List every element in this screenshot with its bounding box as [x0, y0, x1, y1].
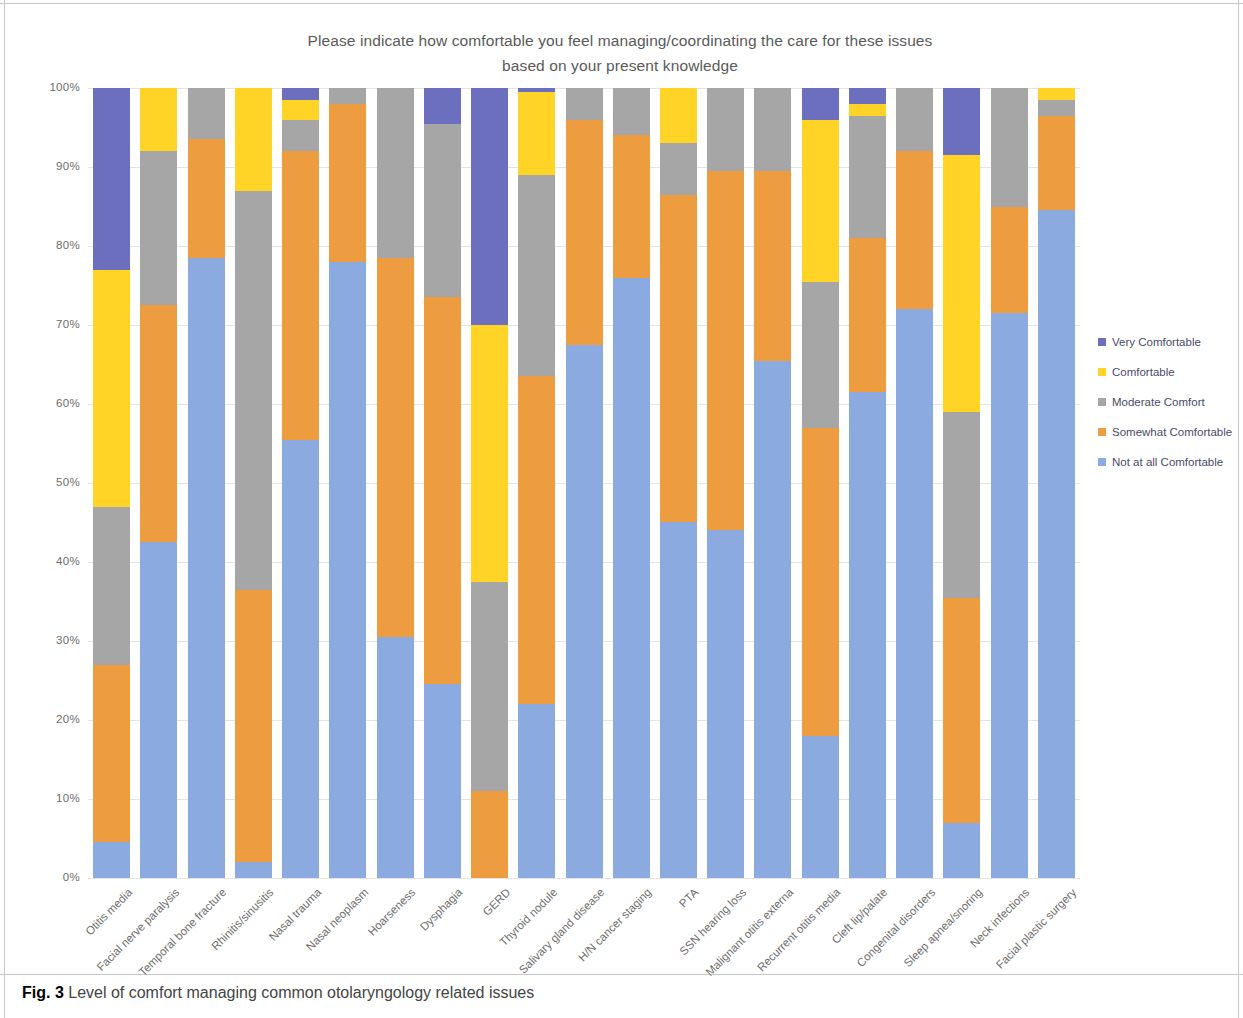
bar-segment — [93, 270, 130, 507]
bar-segment — [518, 175, 555, 376]
figure-caption: Fig. 3 Level of comfort managing common … — [22, 984, 1222, 1002]
bar-segment — [471, 791, 508, 878]
x-axis-label-9: GERD — [480, 886, 512, 918]
bar-segment — [1038, 116, 1075, 211]
bar-segment — [282, 151, 319, 439]
bar-12 — [613, 88, 650, 878]
legend-item-3[interactable]: Moderate Comfort — [1098, 396, 1243, 408]
figure-caption-text: Level of comfort managing common otolary… — [68, 984, 534, 1001]
bar-segment — [707, 88, 744, 171]
x-axis-label-3: Temporal bone fracture — [136, 886, 228, 978]
x-axis-label-8: Dysphagia — [418, 886, 465, 933]
bar-segment — [802, 428, 839, 736]
bar-20 — [991, 88, 1028, 878]
bar-10 — [518, 88, 555, 878]
bar-segment — [140, 305, 177, 542]
bar-1 — [93, 88, 130, 878]
legend-swatch-icon — [1098, 458, 1106, 466]
bar-segment — [377, 88, 414, 258]
bar-segment — [188, 258, 225, 878]
legend-label: Somewhat Comfortable — [1112, 426, 1232, 438]
bar-segment — [660, 143, 697, 194]
figure-container: Please indicate how comfortable you feel… — [0, 0, 1243, 1018]
bar-segment — [424, 684, 461, 878]
bar-segment — [282, 440, 319, 878]
figure-caption-number: Fig. 3 — [22, 984, 64, 1001]
bar-segment — [943, 88, 980, 155]
legend: Very ComfortableComfortableModerate Comf… — [1098, 336, 1243, 486]
bar-segment — [802, 88, 839, 120]
x-axis-label-7: Hoarseness — [366, 886, 418, 938]
bar-segment — [660, 195, 697, 523]
bar-4 — [235, 88, 272, 878]
bar-segment — [424, 297, 461, 684]
bar-segment — [1038, 88, 1075, 100]
bar-segment — [754, 171, 791, 361]
x-axis-label-13: PTA — [677, 886, 701, 910]
legend-swatch-icon — [1098, 428, 1106, 436]
bar-segment — [566, 88, 603, 120]
bar-2 — [140, 88, 177, 878]
y-axis-tick-label: 10% — [28, 792, 80, 804]
y-axis-tick-label: 100% — [28, 81, 80, 93]
bar-segment — [991, 88, 1028, 207]
bar-segment — [660, 88, 697, 143]
y-axis-tick-label: 50% — [28, 476, 80, 488]
y-axis-tick-label: 20% — [28, 713, 80, 725]
bar-segment — [471, 88, 508, 325]
bar-segment — [471, 582, 508, 791]
legend-item-4[interactable]: Somewhat Comfortable — [1098, 426, 1243, 438]
bar-segment — [613, 278, 650, 878]
bar-segment — [140, 88, 177, 151]
bar-17 — [849, 88, 886, 878]
legend-item-2[interactable]: Comfortable — [1098, 366, 1243, 378]
bar-segment — [707, 171, 744, 530]
bar-segment — [943, 155, 980, 412]
bar-segment — [188, 139, 225, 258]
x-axis-label-19: Sleep apnea/snoring — [901, 886, 984, 969]
bar-segment — [991, 313, 1028, 878]
bar-13 — [660, 88, 697, 878]
gridline — [88, 878, 1080, 879]
legend-item-5[interactable]: Not at all Comfortable — [1098, 456, 1243, 468]
bar-8 — [424, 88, 461, 878]
legend-item-1[interactable]: Very Comfortable — [1098, 336, 1243, 348]
bar-16 — [802, 88, 839, 878]
bar-segment — [377, 637, 414, 878]
bar-segment — [802, 120, 839, 282]
bar-segment — [140, 542, 177, 878]
bar-segment — [660, 522, 697, 878]
bar-segment — [566, 120, 603, 345]
bar-segment — [235, 88, 272, 191]
x-axis-label-11: Salivary gland disease — [517, 886, 607, 976]
bar-segment — [849, 116, 886, 238]
bar-segment — [235, 862, 272, 878]
y-axis-tick-label: 40% — [28, 555, 80, 567]
y-axis-tick-label: 80% — [28, 239, 80, 251]
bar-3 — [188, 88, 225, 878]
bar-segment — [896, 151, 933, 309]
bar-18 — [896, 88, 933, 878]
plot-area — [88, 88, 1080, 878]
bar-segment — [849, 392, 886, 878]
bar-segment — [329, 104, 366, 262]
y-axis-tick-label: 60% — [28, 397, 80, 409]
bar-segment — [1038, 210, 1075, 878]
bar-segment — [282, 88, 319, 100]
bar-segment — [424, 88, 461, 124]
bar-segment — [235, 590, 272, 863]
bar-segment — [754, 361, 791, 878]
bar-21 — [1038, 88, 1075, 878]
bar-segment — [235, 191, 272, 590]
bar-segment — [754, 88, 791, 171]
bar-segment — [613, 135, 650, 277]
bar-segment — [377, 258, 414, 637]
y-axis-tick-label: 70% — [28, 318, 80, 330]
bar-segment — [943, 412, 980, 598]
y-axis-tick-label: 0% — [28, 871, 80, 883]
bar-15 — [754, 88, 791, 878]
plot-wrapper: % of Respondents 100%90%80%70%60%50%40%3… — [0, 0, 1243, 1018]
bar-segment — [518, 92, 555, 175]
bar-segment — [991, 207, 1028, 314]
bar-segment — [282, 100, 319, 120]
